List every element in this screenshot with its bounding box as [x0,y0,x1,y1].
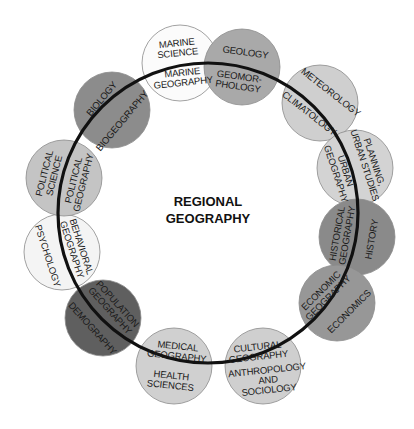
center-title-line2: GEOGRAPHY [166,211,251,226]
center-title-line1: REGIONAL [174,194,243,209]
outer-label-marine: MARINESCIENCE [156,35,199,60]
regional-geography-diagram: MARINESCIENCEMARINEGEOGRAPHYGEOLOGYGEOMO… [0,0,414,429]
